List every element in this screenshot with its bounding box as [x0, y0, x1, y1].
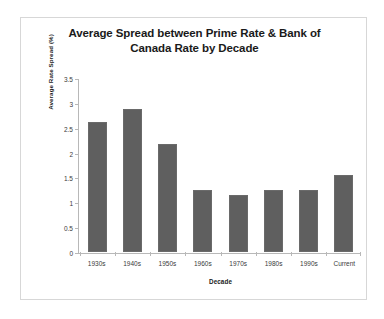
chart-title-line-1: Average Spread between Prime Rate & Bank… — [68, 27, 320, 39]
bar-1960s[interactable] — [193, 190, 212, 252]
y-axis-tick-label: 2.5 — [64, 125, 73, 132]
bar-1970s[interactable] — [229, 195, 248, 252]
y-axis-tick-label: 1.5 — [64, 175, 73, 182]
bar-slot — [150, 79, 185, 252]
chart-container: Average Spread between Prime Rate & Bank… — [20, 17, 367, 300]
y-axis-tick — [75, 253, 79, 254]
y-axis-tick — [75, 104, 79, 105]
bar-slot — [185, 79, 220, 252]
x-axis-tick — [256, 252, 257, 256]
x-axis-tick-label: 1990s — [291, 260, 326, 267]
y-axis-title-label: Average Rate Spread (%) — [47, 22, 54, 122]
x-axis-tick-label: 1940s — [114, 260, 149, 267]
bar-slot — [221, 79, 256, 252]
x-axis-tick-label: 1930s — [79, 260, 114, 267]
bar-1940s[interactable] — [123, 109, 142, 252]
bar-1990s[interactable] — [299, 190, 318, 252]
bar-1980s[interactable] — [264, 190, 283, 252]
y-axis-tick — [75, 178, 79, 179]
bar-slot — [256, 79, 291, 252]
x-axis-tick — [221, 252, 222, 256]
y-axis-tick-label: 2 — [69, 150, 73, 157]
y-axis-tick — [75, 228, 79, 229]
chart-title-line-2: Canada Rate by Decade — [130, 42, 258, 54]
x-axis-tick — [291, 252, 292, 256]
bar-series — [80, 79, 361, 252]
x-axis-title: Decade — [79, 278, 362, 285]
chart-title: Average Spread between Prime Rate & Bank… — [35, 26, 354, 56]
y-axis-tick — [75, 154, 79, 155]
x-axis-tick — [115, 252, 116, 256]
x-axis-tick — [326, 252, 327, 256]
y-axis-tick-label: 3.5 — [64, 76, 73, 83]
x-axis-tick — [360, 252, 361, 256]
bar-1950s[interactable] — [158, 144, 177, 252]
x-axis-tick-label: 1980s — [256, 260, 291, 267]
plot-area: 3.532.521.510.50 — [78, 79, 361, 254]
bar-1930s[interactable] — [88, 122, 107, 252]
bar-slot — [115, 79, 150, 252]
x-axis-tick — [185, 252, 186, 256]
x-axis-tick-labels: 1930s1940s1950s1960s1970s1980s1990sCurre… — [79, 260, 362, 267]
bar-current[interactable] — [334, 175, 353, 252]
y-axis-tick-label: 0.5 — [64, 225, 73, 232]
y-axis-tick-label: 0 — [69, 250, 73, 257]
y-axis-tick-label: 3 — [69, 100, 73, 107]
y-axis-tick-label: 1 — [69, 200, 73, 207]
x-axis-tick-label: 1960s — [185, 260, 220, 267]
x-axis-tick-label: Current — [327, 260, 362, 267]
x-axis-tick-label: 1950s — [150, 260, 185, 267]
y-axis-tick — [75, 203, 79, 204]
y-axis-tick — [75, 129, 79, 130]
y-axis-tick — [75, 79, 79, 80]
bar-slot — [326, 79, 361, 252]
y-axis-title: Average Rate Spread (%) — [47, 22, 54, 122]
bar-slot — [80, 79, 115, 252]
x-axis-tick-label: 1970s — [221, 260, 256, 267]
bar-slot — [291, 79, 326, 252]
x-axis-tick — [150, 252, 151, 256]
x-axis-tick — [80, 252, 81, 256]
